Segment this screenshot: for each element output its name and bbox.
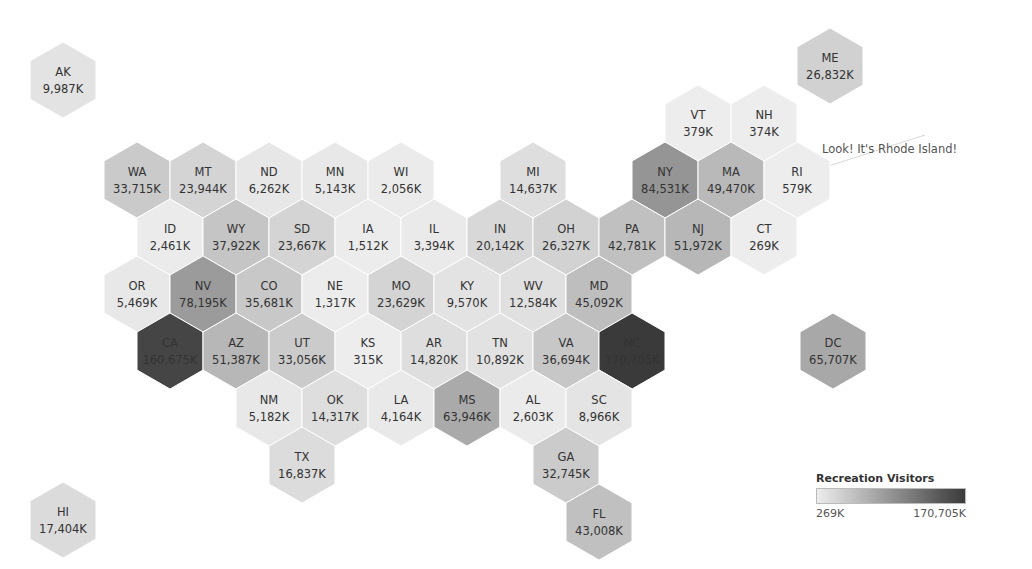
state-value-label: 579K bbox=[782, 182, 812, 196]
state-value-label: 14,317K bbox=[311, 410, 359, 424]
state-code-label: CA bbox=[162, 336, 178, 350]
state-value-label: 8,966K bbox=[579, 410, 620, 424]
state-code-label: MO bbox=[392, 279, 411, 293]
state-value-label: 65,707K bbox=[809, 353, 857, 367]
color-legend: Recreation Visitors 269K 170,705K bbox=[816, 472, 968, 520]
hex-shape[interactable] bbox=[30, 482, 96, 558]
state-value-label: 32,745K bbox=[542, 467, 590, 481]
state-value-label: 33,715K bbox=[113, 182, 161, 196]
state-value-label: 49,470K bbox=[707, 182, 755, 196]
state-code-label: NC bbox=[624, 336, 641, 350]
state-value-label: 20,142K bbox=[476, 239, 524, 253]
state-value-label: 26,327K bbox=[542, 239, 590, 253]
state-code-label: AL bbox=[526, 393, 541, 407]
state-code-label: ND bbox=[260, 165, 278, 179]
state-code-label: TX bbox=[294, 450, 310, 464]
state-value-label: 23,667K bbox=[278, 239, 326, 253]
state-code-label: VA bbox=[559, 336, 574, 350]
state-code-label: KY bbox=[460, 279, 475, 293]
state-code-label: MS bbox=[458, 393, 475, 407]
state-code-label: NV bbox=[195, 279, 212, 293]
state-value-label: 9,570K bbox=[447, 296, 488, 310]
state-value-label: 43,008K bbox=[575, 524, 623, 538]
state-code-label: MA bbox=[722, 165, 740, 179]
state-code-label: ID bbox=[164, 222, 176, 236]
state-value-label: 14,637K bbox=[509, 182, 557, 196]
state-code-label: HI bbox=[57, 505, 69, 519]
state-code-label: CT bbox=[756, 222, 772, 236]
state-hex-hi[interactable]: HI17,404K bbox=[30, 482, 96, 558]
state-value-label: 37,922K bbox=[212, 239, 260, 253]
state-code-label: NM bbox=[260, 393, 279, 407]
state-value-label: 269K bbox=[749, 239, 779, 253]
state-code-label: NH bbox=[755, 108, 772, 122]
state-code-label: FL bbox=[592, 507, 606, 521]
state-code-label: AR bbox=[426, 336, 442, 350]
rhode-island-annotation: Look! It's Rhode Island! bbox=[822, 142, 957, 156]
state-value-label: 5,143K bbox=[315, 182, 356, 196]
state-value-label: 2,056K bbox=[381, 182, 422, 196]
state-value-label: 42,781K bbox=[608, 239, 656, 253]
state-value-label: 3,394K bbox=[414, 239, 455, 253]
state-value-label: 1,512K bbox=[348, 239, 389, 253]
legend-ticks: 269K 170,705K bbox=[816, 507, 966, 520]
state-value-label: 35,681K bbox=[245, 296, 293, 310]
state-value-label: 14,820K bbox=[410, 353, 458, 367]
state-code-label: KS bbox=[361, 336, 376, 350]
hex-tiles: AK9,987KME26,832KVT379KNH374KWA33,715KMT… bbox=[30, 28, 866, 560]
state-value-label: 4,164K bbox=[381, 410, 422, 424]
state-code-label: WV bbox=[523, 279, 542, 293]
state-value-label: 2,603K bbox=[513, 410, 554, 424]
state-code-label: MT bbox=[195, 165, 213, 179]
state-code-label: DC bbox=[825, 336, 842, 350]
state-value-label: 5,182K bbox=[249, 410, 290, 424]
state-hex-ak[interactable]: AK9,987K bbox=[30, 42, 96, 118]
state-code-label: NJ bbox=[692, 222, 704, 236]
state-code-label: ME bbox=[821, 51, 838, 65]
legend-min-label: 269K bbox=[816, 507, 844, 520]
state-value-label: 33,056K bbox=[278, 353, 326, 367]
state-code-label: OR bbox=[128, 279, 145, 293]
state-code-label: VT bbox=[691, 108, 707, 122]
state-value-label: 12,584K bbox=[509, 296, 557, 310]
state-code-label: NE bbox=[327, 279, 343, 293]
state-code-label: WA bbox=[128, 165, 147, 179]
state-code-label: MI bbox=[526, 165, 539, 179]
state-value-label: 379K bbox=[683, 125, 713, 139]
state-code-label: WY bbox=[227, 222, 246, 236]
state-value-label: 51,972K bbox=[674, 239, 722, 253]
state-code-label: PA bbox=[625, 222, 639, 236]
state-value-label: 78,195K bbox=[179, 296, 227, 310]
state-value-label: 1,317K bbox=[315, 296, 356, 310]
state-value-label: 23,629K bbox=[377, 296, 425, 310]
state-code-label: CO bbox=[260, 279, 277, 293]
state-value-label: 23,944K bbox=[179, 182, 227, 196]
state-value-label: 170,705K bbox=[604, 353, 660, 367]
state-hex-me[interactable]: ME26,832K bbox=[797, 28, 863, 104]
legend-max-label: 170,705K bbox=[913, 507, 966, 520]
state-value-label: 160,675K bbox=[142, 353, 198, 367]
state-value-label: 16,837K bbox=[278, 467, 326, 481]
state-hex-dc[interactable]: DC65,707K bbox=[800, 313, 866, 389]
state-value-label: 45,092K bbox=[575, 296, 623, 310]
hex-shape[interactable] bbox=[30, 42, 96, 118]
state-code-label: TN bbox=[491, 336, 508, 350]
state-value-label: 36,694K bbox=[542, 353, 590, 367]
hex-shape[interactable] bbox=[797, 28, 863, 104]
state-code-label: MD bbox=[590, 279, 609, 293]
state-value-label: 315K bbox=[353, 353, 383, 367]
hex-shape[interactable] bbox=[800, 313, 866, 389]
state-code-label: MN bbox=[326, 165, 345, 179]
state-value-label: 10,892K bbox=[476, 353, 524, 367]
state-value-label: 374K bbox=[749, 125, 779, 139]
state-value-label: 17,404K bbox=[39, 522, 87, 536]
state-code-label: NY bbox=[657, 165, 674, 179]
state-value-label: 2,461K bbox=[150, 239, 191, 253]
state-code-label: SD bbox=[294, 222, 310, 236]
state-code-label: RI bbox=[791, 165, 802, 179]
state-code-label: OK bbox=[327, 393, 344, 407]
state-value-label: 9,987K bbox=[43, 82, 84, 96]
state-code-label: LA bbox=[394, 393, 409, 407]
state-value-label: 5,469K bbox=[117, 296, 158, 310]
legend-gradient-bar bbox=[816, 488, 966, 504]
